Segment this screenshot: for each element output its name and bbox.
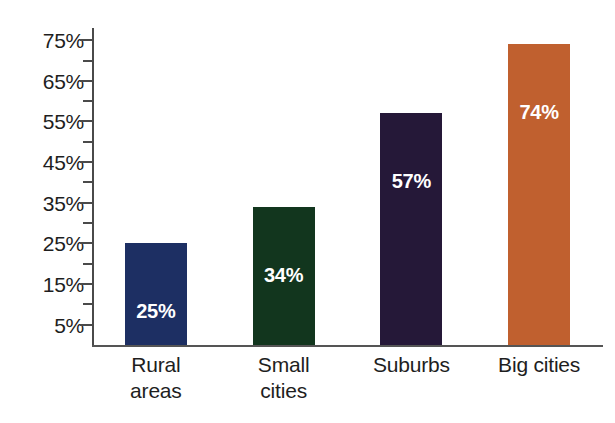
bar-chart: 75%65%55%45%35%25%15%5% 25%34%57%74% Rur… — [0, 0, 615, 423]
x-axis-category-label-line: Rural — [92, 352, 220, 378]
x-axis-category-label-line: Suburbs — [348, 352, 476, 378]
bar-group: 57% — [380, 0, 442, 345]
y-axis-major-tick — [80, 80, 93, 82]
y-axis-minor-tick — [83, 141, 93, 143]
y-axis-tick-label: 55% — [0, 111, 84, 132]
x-axis-category-label-line: Small — [220, 352, 348, 378]
y-axis-minor-tick — [83, 263, 93, 265]
x-axis-category-label: Smallcities — [220, 352, 348, 403]
y-axis-major-tick — [80, 120, 93, 122]
bar-value-label: 57% — [380, 171, 442, 191]
y-axis-tick-label: 45% — [0, 152, 84, 173]
y-axis-minor-tick — [83, 100, 93, 102]
plot-area: 25%34%57%74% — [92, 0, 603, 345]
bar-group: 74% — [508, 0, 570, 345]
y-axis-tick-label: 5% — [0, 314, 84, 335]
x-axis-category-label: Ruralareas — [92, 352, 220, 403]
bar[interactable] — [380, 113, 442, 345]
y-axis-major-tick — [80, 39, 93, 41]
y-axis-major-tick — [80, 161, 93, 163]
y-axis-major-tick — [80, 242, 93, 244]
x-axis-category-label-line: Big cities — [475, 352, 603, 378]
y-axis-tick-label: 35% — [0, 192, 84, 213]
y-axis-major-tick — [80, 283, 93, 285]
x-axis-category-label: Suburbs — [348, 352, 476, 378]
bar-group: 34% — [253, 0, 315, 345]
y-axis-major-tick — [80, 202, 93, 204]
x-axis-line — [92, 345, 603, 347]
y-axis-minor-tick — [83, 60, 93, 62]
bar-group: 25% — [125, 0, 187, 345]
y-axis: 75%65%55%45%35%25%15%5% — [0, 0, 84, 423]
x-axis: RuralareasSmallcitiesSuburbsBig cities — [92, 352, 603, 423]
bar[interactable] — [508, 44, 570, 345]
y-axis-tick-label: 25% — [0, 233, 84, 254]
x-axis-category-label-line: cities — [220, 378, 348, 404]
y-axis-major-tick — [80, 324, 93, 326]
y-axis-minor-tick — [83, 181, 93, 183]
bar[interactable] — [125, 243, 187, 345]
x-axis-category-label-line: areas — [92, 378, 220, 404]
y-axis-tick-label: 15% — [0, 274, 84, 295]
x-axis-category-label: Big cities — [475, 352, 603, 378]
y-axis-tick-label: 65% — [0, 70, 84, 91]
y-axis-minor-tick — [83, 303, 93, 305]
y-axis-minor-tick — [83, 222, 93, 224]
bar-value-label: 25% — [125, 301, 187, 321]
bar-value-label: 74% — [508, 102, 570, 122]
bar-value-label: 34% — [253, 265, 315, 285]
y-axis-tick-label: 75% — [0, 30, 84, 51]
